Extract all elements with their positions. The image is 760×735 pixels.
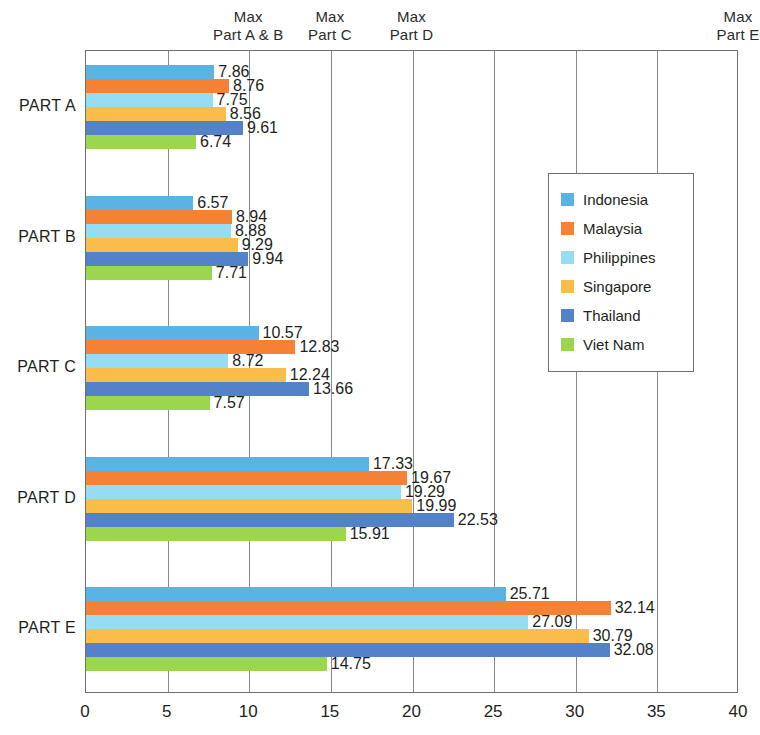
legend-label: Indonesia [583,191,648,208]
bar-singapore[interactable] [86,368,286,382]
bar-row: 15.91 [86,527,739,541]
bar-value-label: 12.83 [295,339,339,355]
bar-row: 6.74 [86,135,739,149]
legend-swatch-icon [561,193,574,206]
bar-value-label: 15.91 [346,525,390,541]
bar-philippines[interactable] [86,354,228,368]
legend-item-thailand[interactable]: Thailand [549,301,693,330]
legend-item-indonesia[interactable]: Indonesia [549,185,693,214]
bar-row: 32.14 [86,601,739,615]
bar-value-label: 6.57 [193,194,228,210]
bar-value-label: 13.66 [309,381,353,397]
bar-value-label: 14.75 [327,656,371,672]
bar-value-label: 8.72 [228,353,263,369]
legend-label: Philippines [583,249,656,266]
bar-indonesia[interactable] [86,457,369,471]
legend-swatch-icon [561,338,574,351]
bar-row: 8.56 [86,107,739,121]
legend-swatch-icon [561,251,574,264]
bar-row: 32.08 [86,643,739,657]
bar-value-label: 6.74 [196,134,231,150]
bar-value-label: 25.71 [506,586,550,602]
max-annotation-line2: Part D [332,26,492,44]
x-tick-label-25: 25 [484,702,503,722]
bar-malaysia[interactable] [86,471,407,485]
bar-value-label: 32.14 [611,600,655,616]
bar-value-label: 27.09 [528,614,572,630]
bar-malaysia[interactable] [86,79,229,93]
bar-row: 9.61 [86,121,739,135]
category-label-part-a: PART A [0,97,76,115]
bar-group: 7.868.767.758.569.616.74 [86,65,737,149]
max-annotation-line2: Part E [658,26,760,44]
bar-malaysia[interactable] [86,210,232,224]
bar-singapore[interactable] [86,629,589,643]
bar-thailand[interactable] [86,382,309,396]
max-annotation-line1: Max [658,8,760,26]
category-label-part-d: PART D [0,489,76,507]
max-annotation-part-e: MaxPart E [658,8,760,44]
bar-group: 17.3319.6719.2919.9922.5315.91 [86,457,737,541]
x-tick-label-20: 20 [402,702,421,722]
bar-viet-nam[interactable] [86,135,196,149]
legend-item-philippines[interactable]: Philippines [549,243,693,272]
legend-label: Malaysia [583,220,642,237]
bar-value-label: 7.57 [210,395,245,411]
legend-swatch-icon [561,309,574,322]
bar-philippines[interactable] [86,224,231,238]
bar-viet-nam[interactable] [86,266,212,280]
legend-item-singapore[interactable]: Singapore [549,272,693,301]
category-label-part-b: PART B [0,228,76,246]
bar-row: 14.75 [86,657,739,671]
bar-viet-nam[interactable] [86,396,210,410]
bar-row: 19.99 [86,499,739,513]
bar-thailand[interactable] [86,513,454,527]
legend-swatch-icon [561,280,574,293]
category-label-part-e: PART E [0,619,76,637]
bar-singapore[interactable] [86,499,412,513]
x-tick-label-40: 40 [729,702,748,722]
bar-indonesia[interactable] [86,65,214,79]
x-axis: 0510152025303540 [85,693,738,733]
bar-philippines[interactable] [86,485,401,499]
bar-singapore[interactable] [86,238,238,252]
legend-label: Viet Nam [583,336,644,353]
bar-singapore[interactable] [86,107,226,121]
chart-legend: IndonesiaMalaysiaPhilippinesSingaporeTha… [548,173,694,372]
bar-value-label: 22.53 [454,511,498,527]
legend-label: Singapore [583,278,651,295]
bar-row: 7.57 [86,396,739,410]
bar-philippines[interactable] [86,615,528,629]
bar-indonesia[interactable] [86,326,259,340]
bar-viet-nam[interactable] [86,527,346,541]
bar-row: 22.53 [86,513,739,527]
bar-row: 13.66 [86,382,739,396]
bar-value-label: 19.99 [412,497,456,513]
legend-item-malaysia[interactable]: Malaysia [549,214,693,243]
bar-malaysia[interactable] [86,340,295,354]
legend-label: Thailand [583,307,641,324]
bar-value-label: 32.08 [610,642,654,658]
legend-swatch-icon [561,222,574,235]
bar-indonesia[interactable] [86,587,506,601]
x-tick-label-30: 30 [565,702,584,722]
x-tick-label-15: 15 [320,702,339,722]
category-label-part-c: PART C [0,358,76,376]
bar-group: 25.7132.1427.0930.7932.0814.75 [86,587,737,671]
bar-indonesia[interactable] [86,196,193,210]
bar-row: 7.86 [86,65,739,79]
max-annotation-part-d: MaxPart D [332,8,492,44]
bar-viet-nam[interactable] [86,657,327,671]
x-tick-label-10: 10 [239,702,258,722]
bar-value-label: 7.71 [212,264,247,280]
bar-philippines[interactable] [86,93,213,107]
bar-row: 27.09 [86,615,739,629]
x-tick-label-5: 5 [162,702,171,722]
bar-row: 7.75 [86,93,739,107]
legend-item-viet-nam[interactable]: Viet Nam [549,330,693,359]
bar-value-label: 9.61 [243,120,278,136]
bar-row: 8.76 [86,79,739,93]
max-annotation-line1: Max [332,8,492,26]
bar-value-label: 9.94 [248,250,283,266]
x-tick-label-35: 35 [647,702,666,722]
